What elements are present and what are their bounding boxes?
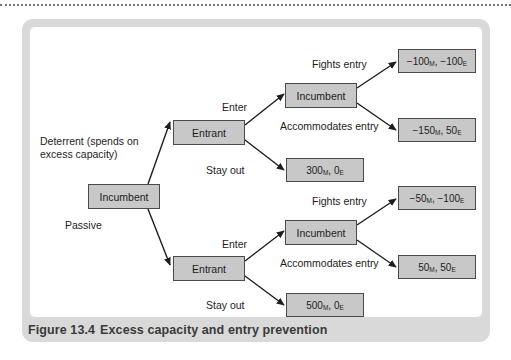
payoff-bottom-accommodates-incumbent: 50 bbox=[418, 262, 429, 273]
payoff-bottom-accommodates-entrant: 50 bbox=[440, 262, 451, 273]
figure-frame: Incumbent Entrant Entrant Incumbent Incu… bbox=[22, 19, 490, 342]
payoff-top-fights-entrant: −100 bbox=[440, 56, 463, 67]
node-incumbent-top[interactable]: Incumbent bbox=[285, 83, 357, 108]
payoff-bottom-stay-out-incumbent-sub: M bbox=[323, 304, 328, 311]
payoff-bottom-stay-out-incumbent: 500 bbox=[306, 300, 323, 311]
node-entrant-top[interactable]: Entrant bbox=[173, 120, 245, 145]
figure-caption-title: Excess capacity and entry prevention bbox=[100, 323, 327, 337]
payoff-top-stay-out-incumbent-sub: M bbox=[323, 169, 328, 176]
payoff-bottom-fights: −50M, −100E bbox=[398, 186, 476, 210]
edge-label-stay-out-top: Stay out bbox=[206, 164, 245, 177]
edge-label-stay-out-bottom: Stay out bbox=[206, 299, 245, 312]
node-incumbent-top-label: Incumbent bbox=[296, 90, 345, 102]
payoff-top-stay-out-entrant-sub: E bbox=[339, 169, 343, 176]
edge-label-passive: Passive bbox=[65, 219, 102, 232]
edge-enter-bottom bbox=[245, 231, 284, 261]
node-incumbent-bottom[interactable]: Incumbent bbox=[285, 220, 357, 245]
payoff-bottom-fights-incumbent: −50 bbox=[410, 193, 427, 204]
edge-passive bbox=[148, 209, 170, 265]
figure-caption-number: Figure 13.4 bbox=[28, 323, 95, 337]
node-incumbent-root[interactable]: Incumbent bbox=[88, 184, 160, 209]
node-entrant-bottom-label: Entrant bbox=[192, 263, 226, 275]
payoff-top-accommodates-incumbent-sub: M bbox=[435, 129, 440, 136]
payoff-top-accommodates: −150M, 50E bbox=[398, 118, 476, 142]
edge-stay-out-top bbox=[245, 140, 284, 170]
payoff-bottom-fights-entrant: −100 bbox=[438, 193, 461, 204]
edge-stay-out-bottom bbox=[245, 276, 284, 305]
edge-label-accommodates-entry-top: Accommodates entry bbox=[280, 120, 379, 133]
node-entrant-top-label: Entrant bbox=[192, 127, 226, 139]
payoff-bottom-fights-incumbent-sub: M bbox=[427, 197, 432, 204]
edge-label-fights-entry-top: Fights entry bbox=[312, 58, 367, 71]
edge-label-deterrent: Deterrent (spends on excess capacity) bbox=[40, 135, 168, 161]
payoff-top-stay-out-incumbent: 300 bbox=[306, 165, 323, 176]
node-incumbent-root-label: Incumbent bbox=[99, 191, 148, 203]
edge-label-accommodates-entry-bottom: Accommodates entry bbox=[280, 257, 379, 270]
figure-caption-text: Figure 13.4Excess capacity and entry pre… bbox=[28, 323, 327, 337]
payoff-top-accommodates-entrant: 50 bbox=[446, 125, 457, 136]
payoff-top-fights: −100M, −100E bbox=[398, 49, 476, 73]
diagram-canvas: Incumbent Entrant Entrant Incumbent Incu… bbox=[30, 27, 482, 317]
payoff-top-fights-incumbent-sub: M bbox=[429, 60, 434, 67]
payoff-bottom-accommodates: 50M, 50E bbox=[398, 255, 476, 279]
payoff-top-fights-entrant-sub: E bbox=[463, 60, 467, 67]
payoff-top-fights-incumbent: −100 bbox=[407, 56, 430, 67]
page-top-dotted-rule bbox=[0, 4, 511, 6]
payoff-bottom-accommodates-incumbent-sub: M bbox=[429, 266, 434, 273]
node-entrant-bottom[interactable]: Entrant bbox=[173, 256, 245, 281]
payoff-top-accommodates-entrant-sub: E bbox=[457, 129, 461, 136]
edge-label-fights-entry-bottom: Fights entry bbox=[312, 195, 367, 208]
figure-caption: Figure 13.4Excess capacity and entry pre… bbox=[22, 317, 490, 342]
edge-enter-top bbox=[245, 94, 284, 125]
figure-page: Incumbent Entrant Entrant Incumbent Incu… bbox=[0, 0, 511, 360]
edge-label-enter-bottom: Enter bbox=[222, 238, 247, 251]
payoff-bottom-stay-out: 500M, 0E bbox=[286, 293, 364, 317]
payoff-top-accommodates-incumbent: −150 bbox=[413, 125, 436, 136]
payoff-bottom-stay-out-entrant-sub: E bbox=[339, 304, 343, 311]
payoff-bottom-fights-entrant-sub: E bbox=[460, 197, 464, 204]
payoff-top-stay-out: 300M, 0E bbox=[286, 158, 364, 182]
node-incumbent-bottom-label: Incumbent bbox=[296, 227, 345, 239]
payoff-bottom-accommodates-entrant-sub: E bbox=[451, 266, 455, 273]
edge-label-enter-top: Enter bbox=[222, 101, 247, 114]
